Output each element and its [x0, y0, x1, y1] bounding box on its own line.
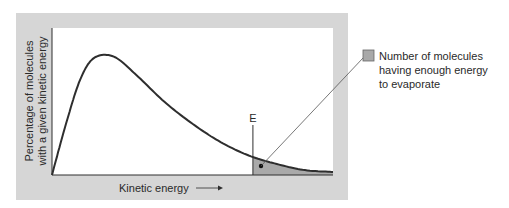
legend-text-3: to evaporate [379, 78, 440, 90]
x-axis-label: Kinetic energy [119, 182, 189, 194]
chart-svg: E Number of molecules having enough ener… [0, 0, 509, 208]
y-axis-label-2: with a given kinetic energy [36, 36, 48, 167]
legend-swatch [363, 50, 374, 61]
plot-area [52, 28, 333, 175]
y-axis-label-1: Percentage of molecules [23, 40, 35, 162]
legend-text-1: Number of molecules [379, 50, 483, 62]
threshold-label: E [249, 112, 256, 124]
legend-text-2: having enough energy [379, 64, 488, 76]
